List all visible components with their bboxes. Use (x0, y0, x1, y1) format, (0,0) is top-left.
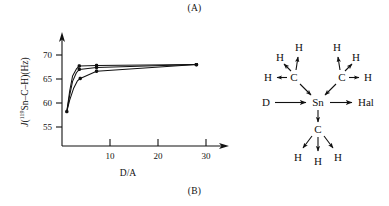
molecular-structure-diagram: Sn D Hal C H H H (248, 30, 388, 170)
atom-label-h-low-right: H (334, 151, 342, 163)
y-axis (59, 32, 65, 146)
panel-b-caption: (B) (0, 186, 389, 196)
atom-label-halide: Hal (358, 96, 374, 108)
bond-c-h-ur-top (338, 57, 340, 70)
figure-root: (A) 70 65 60 55 (0, 0, 389, 206)
bond-c-sn-upper-left (300, 84, 311, 95)
y-axis-ticks (56, 55, 62, 127)
bond-c-h-ur-diag (345, 64, 352, 71)
x-axis-title: D/A (120, 168, 137, 178)
bond-c-h-ul-top (296, 57, 298, 70)
bond-c-sn-upper-right (325, 84, 336, 95)
panel-a-caption: (A) (0, 3, 389, 13)
atom-label-donor: D (262, 96, 270, 108)
atom-label-sn: Sn (312, 96, 324, 108)
methyl-group-upper-left: C H H H (264, 41, 311, 95)
bond-c-h-ul-diag (284, 64, 291, 71)
y-axis-title-nucleus: Sn–C–H (20, 78, 30, 111)
series-curve-3 (67, 63, 198, 112)
data-point-marker (79, 77, 82, 80)
bond-c-h-low-right (324, 136, 333, 148)
data-point-marker (95, 70, 98, 73)
y-tick-label-55: 55 (43, 122, 53, 132)
atom-label-h-ur-right: H (364, 71, 372, 83)
atom-label-carbon-lower: C (314, 123, 321, 135)
svg-text:J(119Sn–C–H)(Hz): J(119Sn–C–H)(Hz) (19, 57, 31, 126)
data-point-marker (95, 66, 98, 69)
atom-label-carbon-upper-left: C (290, 71, 297, 83)
molecule-panel-b: Sn D Hal C H H H (248, 30, 388, 170)
data-point-marker (78, 64, 81, 67)
data-point-marker (195, 63, 198, 66)
methyl-group-upper-right: C H H H (325, 41, 372, 95)
y-tick-label-65: 65 (43, 74, 53, 84)
x-tick-label-30: 30 (202, 151, 212, 161)
atom-label-h-ul-left: H (264, 71, 272, 83)
y-axis-title-units: (Hz) (20, 57, 31, 74)
x-tick-label-10: 10 (106, 151, 116, 161)
atom-label-h-ul-diag: H (276, 51, 284, 63)
atom-label-carbon-upper-right: C (338, 71, 345, 83)
series-curve-2 (67, 63, 198, 112)
atom-label-h-ur-diag: H (352, 51, 360, 63)
series-curve-1 (65, 63, 198, 113)
series-line (67, 65, 197, 112)
x-axis-ticks (110, 139, 206, 146)
series-line (67, 65, 197, 112)
x-tick-label-20: 20 (154, 151, 164, 161)
y-axis-title-superscript: 119 (19, 111, 25, 120)
atom-label-h-ul-top: H (295, 41, 303, 53)
series-line (67, 65, 197, 112)
series-layer (65, 63, 198, 113)
methyl-group-lower: C H H H (294, 110, 342, 167)
atom-label-h-low-center: H (314, 155, 322, 167)
y-axis-title: J(119Sn–C–H)(Hz) (19, 57, 31, 126)
bond-c-h-low-left (303, 136, 312, 148)
atom-label-h-low-left: H (294, 151, 302, 163)
data-point-marker (78, 68, 81, 71)
y-tick-label-60: 60 (43, 98, 53, 108)
line-chart: 70 65 60 55 10 20 30 D/A J(119Sn–C–H)(Hz… (10, 18, 240, 183)
x-axis (62, 143, 229, 149)
chart-panel-a: 70 65 60 55 10 20 30 D/A J(119Sn–C–H)(Hz… (10, 18, 240, 183)
y-tick-label-70: 70 (43, 50, 53, 60)
atom-label-h-ur-top: H (333, 41, 341, 53)
